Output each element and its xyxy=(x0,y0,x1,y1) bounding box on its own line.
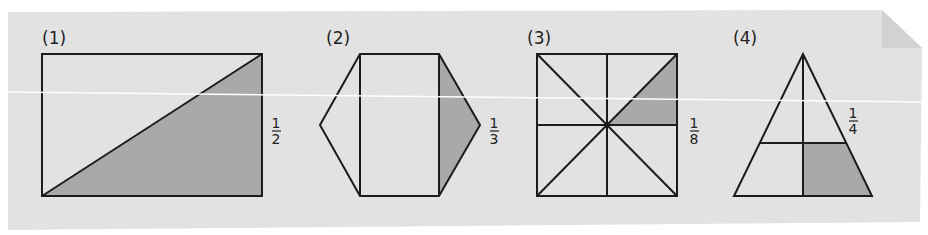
figure-1-label: (1) xyxy=(42,28,66,48)
figure-1-fraction-numerator: 1 xyxy=(272,115,281,131)
figure-2-fraction-denominator: 3 xyxy=(490,131,499,147)
figure-4-label: (4) xyxy=(733,28,757,48)
figure-4-fraction-denominator: 4 xyxy=(849,121,858,137)
figure-3-fraction-denominator: 8 xyxy=(690,131,699,147)
figure-3-center-point xyxy=(605,123,610,128)
folded-corner xyxy=(882,10,922,48)
figure-1-fraction-denominator: 2 xyxy=(272,131,281,147)
figure-3-label: (3) xyxy=(527,28,551,48)
figure-4-fraction-numerator: 1 xyxy=(849,105,858,121)
figure-3-fraction-numerator: 1 xyxy=(690,115,699,131)
figure-2-fraction-numerator: 1 xyxy=(490,115,499,131)
fractions-diagram-panel: (1) 1 2 (2) 1 3 (3) 1 8 (4) xyxy=(0,0,928,235)
figure-2-label: (2) xyxy=(326,28,350,48)
